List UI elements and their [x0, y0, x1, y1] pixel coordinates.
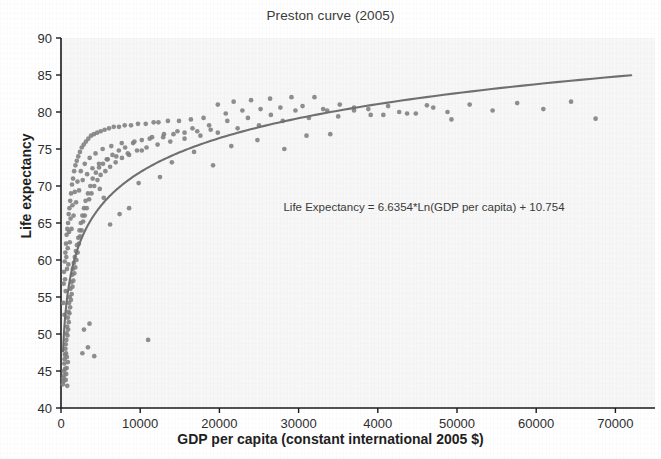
y-tick-label-40: 40	[38, 401, 52, 416]
scatter-point	[71, 176, 76, 181]
scatter-point	[147, 136, 152, 141]
scatter-point	[64, 255, 69, 260]
scatter-point	[101, 161, 106, 166]
scatter-point	[278, 105, 283, 110]
scatter-point	[64, 338, 69, 343]
scatter-point	[65, 267, 70, 272]
scatter-point	[93, 151, 98, 156]
scatter-point	[86, 345, 91, 350]
scatter-point	[143, 121, 148, 126]
scatter-point	[120, 156, 125, 161]
scatter-point	[201, 116, 206, 121]
scatter-point	[66, 320, 71, 325]
y-tick-label-65: 65	[38, 216, 52, 231]
scatter-point	[61, 301, 66, 306]
scatter-point	[397, 110, 402, 115]
x-tick-label-30000: 30000	[281, 416, 317, 431]
scatter-point	[515, 101, 520, 106]
scatter-point	[170, 160, 175, 165]
scatter-point	[90, 166, 95, 171]
scatter-point	[73, 163, 78, 168]
scatter-point	[111, 124, 116, 129]
scatter-point	[78, 169, 83, 174]
scatter-point	[182, 136, 187, 141]
scatter-point	[82, 161, 87, 166]
x-tick-label-20000: 20000	[201, 416, 237, 431]
chart-title: Preston curve (2005)	[0, 8, 661, 23]
scatter-point	[386, 104, 391, 109]
scatter-point	[85, 172, 90, 177]
scatter-point	[72, 190, 77, 195]
scatter-point	[97, 187, 102, 192]
scatter-point	[65, 355, 70, 360]
scatter-point	[171, 132, 176, 137]
scatter-point	[87, 321, 92, 326]
scatter-point	[366, 107, 371, 112]
scatter-point	[64, 372, 69, 377]
y-tick-label-80: 80	[38, 105, 52, 120]
scatter-point	[156, 120, 161, 125]
y-tick-label-55: 55	[38, 290, 52, 305]
y-tick-label-60: 60	[38, 253, 52, 268]
scatter-point	[190, 126, 195, 131]
scatter-point	[127, 206, 132, 211]
scatter-point	[84, 206, 89, 211]
scatter-point	[268, 96, 273, 101]
scatter-point	[182, 130, 187, 135]
x-tick-label-0: 0	[57, 416, 64, 431]
scatter-point	[82, 327, 87, 332]
scatter-point	[98, 173, 103, 178]
x-tick-label-4000: 4000	[363, 416, 392, 431]
scatter-point	[72, 271, 77, 276]
scatter-point	[282, 147, 287, 152]
scatter-point	[82, 213, 87, 218]
preston-curve-chart: Preston curve (2005) Life expectancy GDP…	[0, 0, 661, 459]
scatter-point	[381, 113, 386, 118]
scatter-point	[108, 164, 113, 169]
regression-equation-annotation: Life Expectancy = 6.6354*Ln(GDP per capi…	[248, 201, 600, 213]
scatter-point	[129, 123, 134, 128]
scatter-point	[67, 240, 72, 245]
scatter-point	[65, 333, 70, 338]
scatter-point	[70, 284, 75, 289]
scatter-point	[87, 197, 92, 202]
x-tick-label-60000: 60000	[518, 416, 554, 431]
scatter-point	[63, 378, 68, 383]
scatter-point	[116, 148, 121, 153]
scatter-point	[289, 95, 294, 100]
scatter-point	[146, 338, 151, 343]
scatter-point	[151, 120, 156, 125]
scatter-point	[81, 219, 86, 224]
scatter-point	[109, 144, 114, 149]
scatter-point	[65, 246, 70, 251]
scatter-point	[229, 144, 234, 149]
scatter-point	[78, 150, 83, 155]
scatter-point	[246, 116, 251, 121]
scatter-point	[76, 154, 81, 159]
scatter-point	[235, 126, 240, 131]
scatter-point	[139, 148, 144, 153]
scatter-point	[445, 110, 450, 115]
scatter-point	[192, 150, 197, 155]
scatter-point	[300, 104, 305, 109]
scatter-point	[69, 292, 74, 297]
scatter-point	[102, 127, 107, 132]
scatter-point	[63, 250, 68, 255]
scatter-point	[312, 95, 317, 100]
scatter-point	[240, 108, 245, 113]
scatter-point	[136, 121, 141, 126]
x-tick-label-50000: 50000	[439, 416, 475, 431]
scatter-point	[61, 281, 66, 286]
scatter-point	[68, 198, 73, 203]
scatter-point	[208, 127, 213, 132]
y-tick-label-50: 50	[38, 327, 52, 342]
scatter-point	[107, 126, 112, 131]
scatter-point	[336, 114, 341, 119]
scatter-point	[117, 124, 122, 129]
scatter-point	[113, 160, 118, 165]
scatter-point	[161, 135, 166, 140]
scatter-point	[90, 176, 95, 181]
scatter-point	[569, 99, 574, 104]
scatter-point	[74, 200, 79, 205]
y-tick-label-70: 70	[38, 179, 52, 194]
